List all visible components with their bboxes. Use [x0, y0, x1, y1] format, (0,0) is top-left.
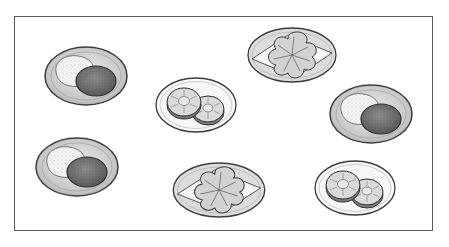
pineapple-plate-1 [156, 78, 236, 132]
rice-and-patty-plate-2 [330, 85, 412, 143]
rice-and-patty-plate-3 [36, 138, 118, 196]
rice-and-patty-plate-1 [45, 47, 127, 105]
food-plates-scene [0, 0, 449, 247]
flower-cake-plate-2 [173, 163, 265, 217]
pineapple-plate-2 [315, 161, 395, 215]
flower-cake-plate-1 [248, 28, 336, 82]
